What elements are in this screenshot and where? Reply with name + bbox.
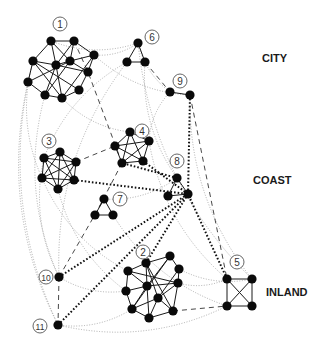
community-label-3: 3 — [42, 134, 56, 148]
node — [247, 274, 256, 283]
community-label-11: 11 — [33, 319, 47, 333]
node — [165, 251, 174, 260]
community-label-6: 6 — [145, 30, 159, 44]
community-id: 8 — [174, 156, 180, 167]
node — [71, 157, 80, 166]
node — [37, 173, 46, 182]
community-label-7: 7 — [113, 192, 127, 206]
dashed-link — [190, 95, 227, 279]
node — [141, 258, 150, 267]
node — [69, 175, 78, 184]
node — [54, 272, 63, 281]
node — [183, 189, 192, 198]
node — [110, 141, 119, 150]
node — [222, 274, 231, 283]
node — [69, 36, 78, 45]
weak-link — [62, 98, 130, 132]
node — [23, 77, 32, 86]
node — [153, 293, 162, 302]
node — [55, 147, 64, 156]
community-label-9: 9 — [173, 74, 187, 88]
strong-link — [188, 194, 227, 279]
node — [247, 301, 256, 310]
node — [144, 313, 153, 322]
node — [138, 156, 147, 165]
node — [173, 278, 182, 287]
node — [51, 60, 60, 69]
node — [108, 210, 117, 219]
community-edge — [56, 65, 62, 98]
weak-link — [59, 277, 126, 292]
weak-link — [138, 43, 170, 92]
region-label-city: CITY — [262, 52, 287, 64]
community-edge — [122, 132, 130, 163]
node — [99, 194, 108, 203]
community-labels: 1234567891011 — [33, 17, 244, 333]
node — [53, 320, 62, 329]
node — [39, 153, 48, 162]
weak-link — [19, 82, 58, 325]
weak-link — [149, 92, 170, 141]
node — [144, 136, 153, 145]
node — [53, 184, 62, 193]
dashed-link — [145, 62, 170, 92]
strong-link — [59, 194, 188, 277]
node — [168, 306, 177, 315]
weak-link — [179, 269, 252, 282]
community-label-5: 5 — [230, 255, 244, 269]
dashed-link — [76, 146, 115, 162]
community-id: 5 — [234, 257, 240, 268]
node — [123, 266, 132, 275]
community-id: 11 — [36, 322, 45, 332]
region-label-inland: INLAND — [266, 286, 308, 298]
node — [122, 57, 131, 66]
node — [57, 93, 66, 102]
node — [121, 286, 130, 295]
node — [222, 301, 231, 310]
community-label-4: 4 — [135, 124, 149, 138]
weak-link — [58, 306, 227, 332]
node — [46, 36, 55, 45]
node — [65, 56, 74, 65]
node — [163, 191, 172, 200]
weak-link — [58, 309, 132, 326]
community-id: 3 — [46, 136, 52, 147]
node — [74, 85, 83, 94]
community-id: 7 — [117, 194, 123, 205]
node — [90, 210, 99, 219]
node — [125, 127, 134, 136]
node — [117, 158, 126, 167]
node — [185, 90, 194, 99]
community-label-10: 10 — [39, 270, 53, 284]
node — [133, 38, 142, 47]
community-id: 1 — [57, 19, 63, 30]
community-label-2: 2 — [136, 245, 150, 259]
weak-link — [20, 61, 58, 325]
node — [89, 50, 98, 59]
node — [165, 87, 174, 96]
node — [127, 304, 136, 313]
community-label-8: 8 — [170, 154, 184, 168]
region-label-coast: COAST — [253, 174, 292, 186]
weak-link — [178, 279, 227, 286]
community-id: 9 — [177, 76, 183, 87]
community-label-1: 1 — [53, 17, 67, 31]
community-id: 10 — [41, 273, 51, 283]
community-id: 4 — [139, 126, 145, 137]
node — [40, 90, 49, 99]
community-id: 2 — [140, 247, 146, 258]
weak-link — [94, 43, 138, 55]
strong-link — [188, 95, 190, 194]
node — [83, 67, 92, 76]
node — [174, 264, 183, 273]
node — [28, 56, 37, 65]
node — [142, 281, 151, 290]
node — [172, 173, 181, 182]
node — [140, 57, 149, 66]
community-edge — [115, 146, 143, 161]
community-edge — [147, 283, 178, 286]
community-id: 6 — [149, 32, 155, 43]
weak-link — [51, 41, 138, 50]
dashed-link — [58, 277, 59, 325]
